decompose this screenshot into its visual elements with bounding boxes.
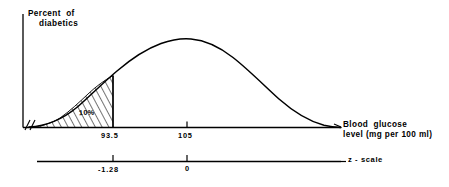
- z-tick-label-neg-1-28: -1.28: [98, 165, 119, 174]
- shaded-tail-region: [25, 70, 120, 130]
- axis-break-icon: [25, 120, 35, 130]
- x-axis-label-line2: level (mg per 100 ml): [343, 130, 432, 140]
- normal-distribution-figure: Percent of diabetics Blood glucose level…: [0, 0, 449, 187]
- z-tick-label-zero: 0: [185, 164, 190, 173]
- x-tick-label-93-5: 93.5: [101, 131, 119, 140]
- x-tick-label-105: 105: [178, 131, 193, 140]
- z-axis-title: z - scale: [348, 155, 383, 164]
- y-axis-label-line2: diabetics: [39, 19, 78, 29]
- y-axis-label-line1: Percent of: [28, 9, 75, 19]
- shaded-area-percent-label: 10%: [79, 108, 95, 118]
- x-axis-label-line1: Blood glucose: [343, 120, 407, 130]
